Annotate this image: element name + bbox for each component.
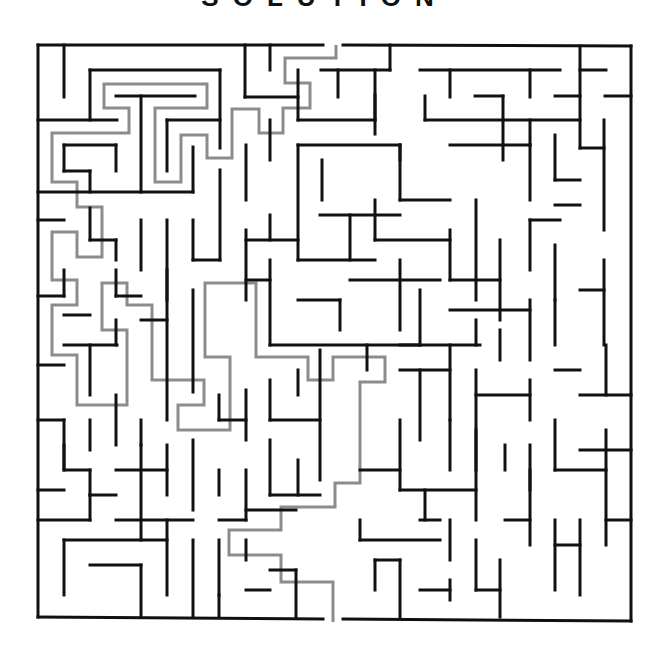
maze-wall	[38, 617, 323, 619]
maze-board	[0, 0, 649, 654]
maze-wall	[343, 45, 631, 46]
maze-wall	[343, 619, 631, 621]
